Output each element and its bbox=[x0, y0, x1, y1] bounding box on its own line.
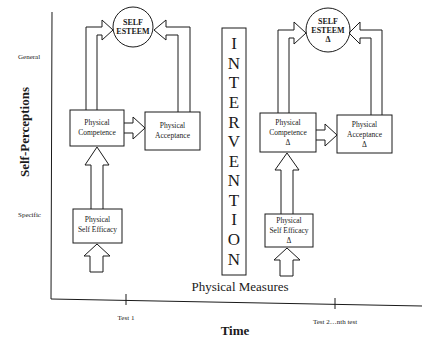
pre-self-esteem-line1: SELF bbox=[113, 18, 153, 27]
x-tick-label-test2: Test 2…nth test bbox=[300, 318, 370, 327]
intervention-letter: I bbox=[231, 211, 237, 228]
intervention-letter: N bbox=[228, 172, 240, 189]
pre-competence-to-acceptance-arrow bbox=[124, 117, 145, 139]
pre-efficacy-to-competence-arrow bbox=[85, 147, 109, 209]
pre-acceptance-line2: Acceptance bbox=[145, 131, 200, 141]
post-competence-to-acceptance-arrow bbox=[316, 124, 337, 146]
post-self-esteem-delta: Δ bbox=[306, 35, 350, 44]
pre-physical-competence-label: Physical Competence bbox=[70, 118, 124, 138]
post-self-esteem-line1: SELF bbox=[306, 17, 350, 26]
pre-self-esteem-line2: ESTEEM bbox=[113, 27, 153, 36]
post-physical-self-efficacy-label: Physical Self Efficacy Δ bbox=[265, 216, 313, 246]
pre-acceptance-line1: Physical bbox=[145, 121, 200, 131]
post-acceptance-line1: Physical bbox=[337, 120, 392, 130]
intervention-letter: O bbox=[228, 231, 240, 248]
intervention-label: I N T E R V E N T I O N bbox=[222, 28, 246, 275]
physical-measures-label: Physical Measures bbox=[180, 279, 300, 295]
pre-competence-line2: Competence bbox=[70, 128, 124, 138]
y-axis-specific-label: Specific bbox=[18, 211, 41, 220]
post-competence-line2: Competence bbox=[260, 128, 316, 138]
post-efficacy-line1: Physical bbox=[265, 216, 313, 226]
intervention-letter: I bbox=[231, 35, 237, 52]
y-axis-general-label: General bbox=[18, 53, 40, 62]
post-self-esteem-line2: ESTEEM bbox=[306, 26, 350, 35]
x-axis-line bbox=[51, 299, 422, 306]
intervention-letter: N bbox=[228, 251, 240, 268]
y-axis-line bbox=[51, 12, 52, 299]
intervention-letter: T bbox=[229, 74, 239, 91]
intervention-letter: R bbox=[228, 114, 239, 131]
pre-physical-self-efficacy-label: Physical Self Efficacy bbox=[73, 215, 122, 235]
post-competence-line1: Physical bbox=[260, 118, 316, 128]
pre-self-esteem-label: SELF ESTEEM bbox=[113, 18, 153, 36]
intervention-letter: V bbox=[228, 133, 240, 150]
intervention-letter: N bbox=[228, 55, 240, 72]
intervention-letter: E bbox=[229, 153, 239, 170]
post-acceptance-line2: Acceptance bbox=[337, 130, 392, 140]
diagram-canvas: General Specific Self-Perceptions Test 1… bbox=[0, 0, 442, 354]
pre-competence-to-esteem-arrow bbox=[86, 20, 113, 110]
pre-physical-acceptance-label: Physical Acceptance bbox=[145, 121, 200, 141]
post-measures-to-efficacy-arrow bbox=[274, 248, 300, 276]
intervention-letter: E bbox=[229, 94, 239, 111]
pre-measures-to-efficacy-arrow bbox=[84, 244, 110, 272]
diagram-graphics bbox=[0, 0, 442, 354]
post-efficacy-delta: Δ bbox=[265, 236, 313, 246]
pre-efficacy-line1: Physical bbox=[73, 215, 122, 225]
post-efficacy-line2: Self Efficacy bbox=[265, 226, 313, 236]
post-physical-acceptance-label: Physical Acceptance Δ bbox=[337, 120, 392, 150]
post-competence-to-esteem-arrow bbox=[278, 22, 306, 113]
post-physical-competence-label: Physical Competence Δ bbox=[260, 118, 316, 148]
pre-acceptance-to-esteem-arrow bbox=[154, 20, 190, 112]
post-self-esteem-label: SELF ESTEEM Δ bbox=[306, 17, 350, 44]
post-acceptance-delta: Δ bbox=[337, 140, 392, 150]
pre-competence-line1: Physical bbox=[70, 118, 124, 128]
post-efficacy-to-competence-arrow bbox=[275, 153, 299, 214]
x-tick-label-test1: Test 1 bbox=[110, 314, 142, 323]
y-axis-title: Self-Perceptions bbox=[17, 87, 33, 177]
intervention-letter: T bbox=[229, 192, 239, 209]
post-acceptance-to-esteem-arrow bbox=[349, 22, 382, 115]
post-competence-delta: Δ bbox=[260, 138, 316, 148]
pre-efficacy-line2: Self Efficacy bbox=[73, 225, 122, 235]
x-axis-title: Time bbox=[215, 323, 255, 339]
